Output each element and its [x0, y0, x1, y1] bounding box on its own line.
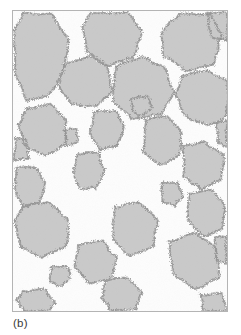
figure-caption: (b) — [13, 316, 28, 330]
paper-grain-overlay — [13, 11, 227, 311]
micrograph-panel — [12, 10, 228, 312]
micrograph-image — [13, 11, 227, 311]
figure-root: (b) — [0, 0, 241, 335]
